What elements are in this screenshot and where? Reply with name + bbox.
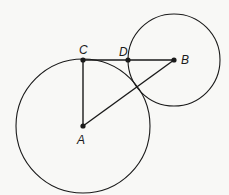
segment-ab: [83, 60, 174, 126]
point-b: [171, 57, 176, 62]
label-d: D: [119, 45, 128, 59]
label-b: B: [181, 53, 189, 67]
label-a: A: [76, 133, 85, 147]
point-c: [80, 57, 85, 62]
label-c: C: [79, 43, 88, 57]
point-a: [80, 123, 85, 128]
geometry-diagram: C D B A: [0, 0, 229, 195]
